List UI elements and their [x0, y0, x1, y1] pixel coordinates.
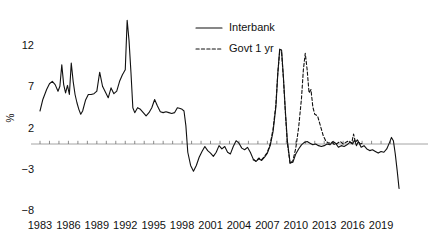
x-tick-label: 2016 [340, 219, 364, 231]
x-axis-tick-labels: 1983198619891992199519982001200420072010… [28, 219, 394, 231]
x-tick-label: 1998 [170, 219, 194, 231]
legend-label-govt-1-yr: Govt 1 yr [229, 42, 274, 54]
y-axis-title: % [5, 113, 16, 122]
x-tick-label: 2004 [227, 219, 251, 231]
data-series-group [40, 20, 399, 188]
chart-container: 1272−3−8 1983198619891992199519982001200… [0, 0, 433, 236]
series-line-interbank [40, 20, 399, 188]
y-tick-label: 12 [22, 39, 34, 51]
y-axis-tick-labels: 1272−3−8 [21, 39, 34, 216]
x-tick-label: 1986 [56, 219, 80, 231]
legend-label-interbank: Interbank [229, 21, 275, 33]
x-tick-label: 1983 [28, 219, 52, 231]
x-tick-label: 1989 [85, 219, 109, 231]
x-tick-label: 2007 [255, 219, 279, 231]
y-tick-label: −8 [21, 204, 34, 216]
x-tick-label: 1992 [113, 219, 137, 231]
y-tick-label: 2 [28, 122, 34, 134]
chart-legend: InterbankGovt 1 yr [196, 21, 275, 54]
line-chart: 1272−3−8 1983198619891992199519982001200… [0, 0, 433, 236]
x-tick-label: 2001 [198, 219, 222, 231]
y-tick-label: −3 [21, 163, 34, 175]
x-tick-label: 2019 [369, 219, 393, 231]
x-tick-label: 1995 [141, 219, 165, 231]
x-tick-label: 2010 [284, 219, 308, 231]
x-tick-label: 2013 [312, 219, 336, 231]
y-tick-label: 7 [28, 80, 34, 92]
